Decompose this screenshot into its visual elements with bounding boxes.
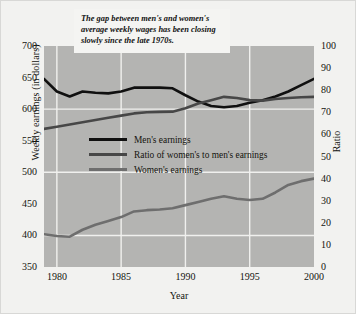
legend-label: Women's earnings — [134, 165, 202, 175]
y-tick-left-500: 500 — [3, 167, 37, 177]
y-tick-right-40: 40 — [321, 174, 345, 184]
y-tick-left-700: 700 — [3, 41, 37, 51]
legend-swatch-icon — [89, 138, 127, 141]
y-tick-right-20: 20 — [321, 218, 345, 228]
x-tick-1995: 1995 — [230, 272, 270, 282]
legend-label: Men's earnings — [134, 135, 191, 145]
legend-item-0[interactable]: Men's earnings — [89, 132, 267, 147]
y-tick-right-50: 50 — [321, 152, 345, 162]
chart-annotation-callout: The gap between men's and women's averag… — [74, 9, 230, 53]
y-tick-right-80: 80 — [321, 85, 345, 95]
y-tick-right-60: 60 — [321, 129, 345, 139]
y-tick-left-450: 450 — [3, 199, 37, 209]
legend-label: Ratio of women's to men's earnings — [134, 150, 267, 160]
legend-swatch-icon — [89, 153, 127, 156]
legend-item-1[interactable]: Ratio of women's to men's earnings — [89, 147, 267, 162]
y-tick-left-350: 350 — [3, 262, 37, 272]
chart-figure: Weekly earnings (in dollars) Ratio Year … — [0, 0, 356, 314]
legend-item-2[interactable]: Women's earnings — [89, 162, 267, 177]
y-tick-right-90: 90 — [321, 63, 345, 73]
y-tick-right-0: 0 — [321, 262, 345, 272]
x-tick-1985: 1985 — [101, 272, 141, 282]
y-tick-right-100: 100 — [321, 41, 345, 51]
y-tick-right-30: 30 — [321, 196, 345, 206]
x-axis-title: Year — [44, 290, 314, 301]
y-tick-left-650: 650 — [3, 73, 37, 83]
y-tick-left-550: 550 — [3, 136, 37, 146]
y-tick-right-70: 70 — [321, 107, 345, 117]
y-tick-left-600: 600 — [3, 104, 37, 114]
x-tick-1980: 1980 — [37, 272, 77, 282]
x-tick-1990: 1990 — [165, 272, 205, 282]
chart-legend: Men's earningsRatio of women's to men's … — [89, 132, 267, 177]
legend-swatch-icon — [89, 168, 127, 171]
y-tick-left-400: 400 — [3, 230, 37, 240]
y-tick-right-10: 10 — [321, 240, 345, 250]
x-tick-2000: 2000 — [294, 272, 334, 282]
